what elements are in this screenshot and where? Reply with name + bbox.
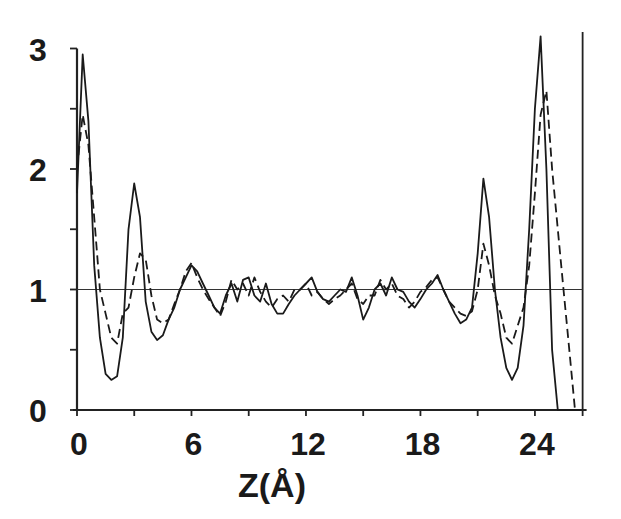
density-profile-chart: 012306121824 Z(Å) [0, 0, 621, 519]
series-group [77, 36, 581, 410]
series-solid-line [77, 36, 581, 410]
y-tick-label: 1 [29, 273, 47, 309]
axes [70, 32, 587, 416]
x-tick-label: 12 [290, 426, 326, 462]
y-tick-label: 0 [29, 393, 47, 429]
x-tick-label: 18 [405, 426, 441, 462]
tick-labels: 012306121824 [29, 32, 555, 463]
x-tick-label: 24 [519, 426, 555, 462]
y-tick-label: 3 [29, 32, 47, 68]
x-axis-title: Z(Å) [238, 466, 306, 504]
x-tick-label: 0 [70, 426, 88, 462]
y-tick-label: 2 [29, 152, 47, 188]
x-tick-label: 6 [185, 426, 203, 462]
